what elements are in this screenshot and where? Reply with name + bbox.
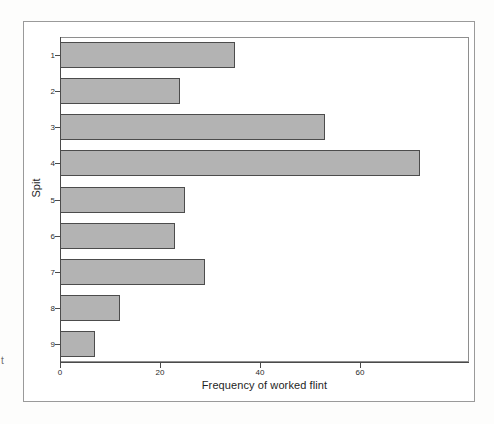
y-tick-label: 6 (51, 231, 55, 240)
y-tick (55, 127, 60, 128)
y-axis-label: Spit (30, 148, 42, 228)
y-tick-label: 8 (51, 303, 55, 312)
chart-figure: 0204060 123456789 Frequency of worked fl… (0, 0, 494, 424)
y-tick (55, 91, 60, 92)
y-tick-label: 4 (51, 159, 55, 168)
x-tick-label: 40 (256, 368, 265, 377)
y-tick-label: 7 (51, 267, 55, 276)
y-tick (55, 344, 60, 345)
y-tick-label: 3 (51, 123, 55, 132)
x-axis-line (60, 362, 469, 363)
y-tick (55, 55, 60, 56)
x-tick-label: 0 (58, 368, 62, 377)
y-axis-line (60, 37, 61, 363)
y-tick-label: 2 (51, 87, 55, 96)
x-tick-label: 60 (356, 368, 365, 377)
y-tick (55, 308, 60, 309)
y-tick-label: 9 (51, 339, 55, 348)
y-tick-label: 1 (51, 51, 55, 60)
y-tick (55, 200, 60, 201)
scan-artifact-glyph: t (1, 355, 4, 366)
y-tick (55, 236, 60, 237)
x-axis-label: Frequency of worked flint (60, 379, 469, 391)
y-tick (55, 163, 60, 164)
plot-area (60, 37, 469, 362)
y-tick (55, 272, 60, 273)
y-tick-label: 5 (51, 195, 55, 204)
x-tick-label: 20 (156, 368, 165, 377)
